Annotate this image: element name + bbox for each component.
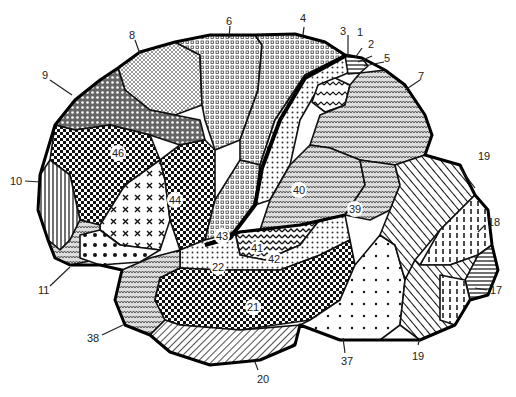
label-18: 18 [488,216,500,228]
label-7: 7 [418,70,424,82]
brodmann-diagram: 1 2 3 4 5 6 7 8 9 10 11 17 18 19 19 20 3… [0,0,516,397]
label-41: 41 [251,242,263,254]
label-40: 40 [293,184,305,196]
label-20: 20 [257,373,269,385]
label-2: 2 [368,38,374,50]
brain-svg: 1 2 3 4 5 6 7 8 9 10 11 17 18 19 19 20 3… [0,0,516,397]
label-6: 6 [226,15,232,27]
label-46: 46 [112,147,124,159]
label-43: 43 [216,230,228,242]
label-8: 8 [129,29,135,41]
label-1: 1 [357,26,363,38]
label-44: 44 [169,194,181,206]
area-18-lower [440,275,470,325]
label-38: 38 [87,332,99,344]
label-17: 17 [490,284,502,296]
label-22: 22 [212,261,224,273]
label-3: 3 [340,25,346,37]
label-37: 37 [341,355,353,367]
label-11: 11 [38,284,49,296]
label-21: 21 [247,301,259,313]
brain-regions [38,34,498,365]
label-10: 10 [10,175,22,187]
label-42: 42 [268,253,280,265]
label-19-lower: 19 [412,350,424,362]
label-19-upper: 19 [478,150,490,162]
label-5: 5 [384,52,390,64]
label-39: 39 [349,203,361,215]
label-4: 4 [300,12,306,24]
label-9: 9 [42,69,48,81]
